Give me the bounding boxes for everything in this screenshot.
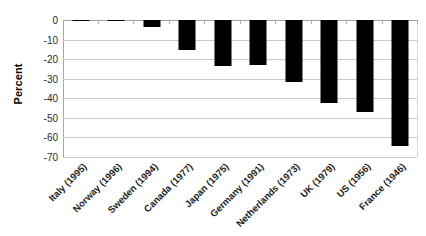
bar-slot [99,20,135,157]
bar [392,20,409,146]
bar [356,20,373,112]
bar [285,20,302,82]
bar-slot [63,20,99,157]
bar-slot [312,20,348,157]
bar [72,20,89,21]
bar-slot [347,20,383,157]
x-axis-tick-labels: Italy (1995)Norway (1996)Sweden (1994)Ca… [63,157,418,236]
y-axis-tick-label: -40 [4,93,58,104]
bar-chart: Percent 0-10-20-30-40-50-60-70 Italy (19… [0,0,426,236]
bar-slot [205,20,241,157]
y-axis-tick-label: 0 [4,15,58,26]
bar-slot [241,20,277,157]
plot-area [63,20,418,157]
y-axis-tick-label: -70 [4,152,58,163]
bar-slot [383,20,419,157]
bar [179,20,196,50]
bar [108,20,125,21]
y-axis-tick-label: -50 [4,112,58,123]
y-axis-tick-label: -60 [4,132,58,143]
y-axis-tick-label: -30 [4,73,58,84]
y-axis-tick-label: -20 [4,54,58,65]
bar-slot [276,20,312,157]
x-axis-tick-mark [417,20,418,24]
bar [250,20,267,65]
bar-slot [170,20,206,157]
bar [143,20,160,27]
bar-slot [134,20,170,157]
x-axis-tick-label: Italy (1995) [0,161,89,236]
bar [321,20,338,103]
y-axis-tick-label: -10 [4,34,58,45]
bar [214,20,231,66]
y-axis-tick-labels: 0-10-20-30-40-50-60-70 [0,20,58,157]
